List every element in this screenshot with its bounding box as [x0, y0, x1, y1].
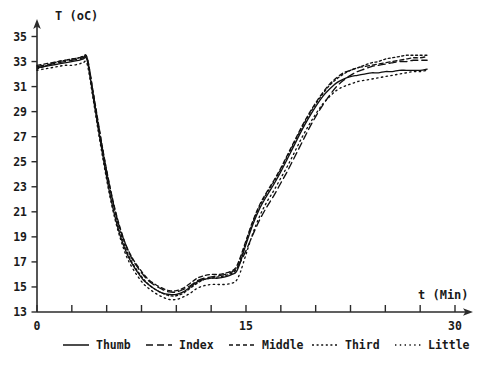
chart-series-group — [37, 55, 427, 300]
series-line-index — [37, 56, 427, 292]
x-axis-title: t (Min) — [418, 288, 469, 302]
series-line-thumb — [37, 57, 427, 294]
y-tick-label: 13 — [13, 305, 27, 319]
legend-label-thumb: Thumb — [96, 338, 131, 352]
y-axis-title: T (oC) — [55, 9, 98, 23]
y-tick-label: 31 — [13, 80, 27, 94]
y-tick-label: 33 — [13, 55, 27, 69]
y-tick-label: 17 — [13, 255, 27, 269]
y-axis-ticks: 131517192123252729313335 — [13, 30, 37, 320]
x-tick-label: 30 — [448, 319, 462, 333]
legend-label-third: Third — [345, 338, 380, 352]
series-line-middle — [37, 55, 427, 291]
y-tick-label: 19 — [13, 230, 27, 244]
legend-label-index: Index — [179, 338, 214, 352]
y-tick-label: 25 — [13, 155, 27, 169]
legend-label-middle: Middle — [262, 338, 304, 352]
legend-label-little: Little — [428, 338, 470, 352]
y-tick-label: 27 — [13, 130, 27, 144]
x-tick-label: 15 — [239, 319, 253, 333]
y-tick-label: 23 — [13, 180, 27, 194]
x-tick-label: 0 — [34, 319, 41, 333]
x-axis-ticks: 01530 — [34, 305, 462, 333]
chart-legend: ThumbIndexMiddleThirdLittle — [63, 338, 470, 352]
chart-axes — [33, 19, 473, 316]
temperature-recovery-chart: 131517192123252729313335 01530 T (oC) t … — [0, 0, 483, 367]
y-tick-label: 35 — [13, 30, 27, 44]
y-tick-label: 21 — [13, 205, 27, 219]
y-tick-label: 15 — [13, 280, 27, 294]
series-line-third — [37, 55, 427, 296]
series-line-little — [37, 61, 427, 300]
y-tick-label: 29 — [13, 105, 27, 119]
